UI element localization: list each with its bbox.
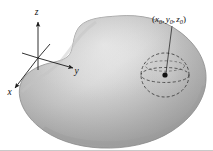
point-label-comma-2: ,	[173, 14, 175, 24]
y-axis-negative	[22, 53, 38, 58]
solid-region-figure: z y x (x0,y0,z0)	[0, 0, 213, 151]
point-label: (x0,y0,z0)	[152, 14, 186, 25]
figure-container: z y x (x0,y0,z0)	[0, 0, 213, 151]
x-axis-label: x	[6, 87, 12, 97]
point-label-comma-1: ,	[162, 14, 164, 24]
center-point	[162, 72, 167, 77]
point-label-close-paren: )	[183, 14, 186, 24]
y-axis-label: y	[73, 66, 79, 76]
z-axis-label: z	[34, 7, 39, 17]
x-axis-negative	[38, 44, 50, 58]
